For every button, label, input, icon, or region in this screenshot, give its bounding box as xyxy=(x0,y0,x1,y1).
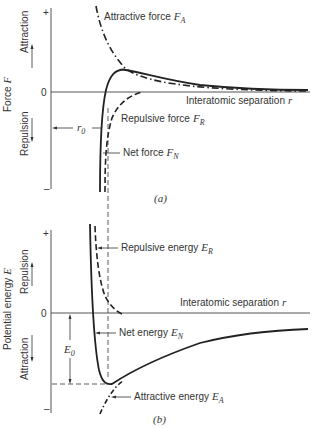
svg-text:E0: E0 xyxy=(63,343,75,358)
panel-a-caption: (a) xyxy=(154,192,167,205)
arrow-down-icon xyxy=(31,335,34,362)
label-net-energy: Net energyEN xyxy=(119,326,184,341)
panel-b-x-axis-label: Interatomic separationr xyxy=(180,296,287,308)
label-net-force: Net forceFN xyxy=(123,146,179,161)
panel-b-y-axis-label: Potential energyE xyxy=(1,268,13,350)
force-energy-diagram: + 0 – ForceF Attraction Repulsion r0 xyxy=(0,0,317,428)
arrow-up-icon xyxy=(31,44,34,68)
panel-b-attraction-label: Attraction xyxy=(19,338,30,380)
attractive-energy-curve xyxy=(100,381,123,414)
r0-indicator: r0 xyxy=(52,121,102,136)
repulsive-force-curve xyxy=(105,92,142,192)
panel-a-y-axis-label: ForceF xyxy=(1,76,13,112)
panel-b-tick-minus: – xyxy=(44,403,50,414)
panel-b-energy: + 0 – Potential energyE Repulsion Attrac… xyxy=(1,224,310,426)
arrow-up-icon xyxy=(31,262,34,286)
panel-a-x-axis-label: Interatomic separationr xyxy=(186,94,293,106)
panel-a-attraction-label: Attraction xyxy=(19,11,30,53)
panel-b-repulsion-label: Repulsion xyxy=(19,250,30,294)
panel-b-tick-plus: + xyxy=(43,228,49,239)
repulsive-energy-curve xyxy=(95,226,122,314)
panel-a-tick-plus: + xyxy=(43,7,49,18)
e0-indicator: E0 xyxy=(63,314,75,384)
panel-a-repulsion-label: Repulsion xyxy=(19,112,30,156)
label-repulsive-force: Repulsive forceFR xyxy=(121,112,205,127)
attractive-energy-pointer xyxy=(111,396,131,399)
label-attractive-force: Attractive forceFA xyxy=(104,10,185,25)
label-attractive-energy: Attractive energyEA xyxy=(134,390,224,405)
panel-a-force: + 0 – ForceF Attraction Repulsion r0 xyxy=(1,6,310,380)
repulsive-energy-pointer xyxy=(97,247,118,250)
panel-b-caption: (b) xyxy=(153,413,166,426)
panel-a-tick-zero: 0 xyxy=(41,87,47,98)
panel-b-tick-zero: 0 xyxy=(41,308,47,319)
label-repulsive-energy: Repulsive energyER xyxy=(121,241,213,256)
svg-text:r0: r0 xyxy=(77,121,85,136)
net-energy-pointer xyxy=(95,332,116,335)
panel-a-tick-minus: – xyxy=(44,183,50,194)
arrow-down-icon xyxy=(31,118,34,142)
